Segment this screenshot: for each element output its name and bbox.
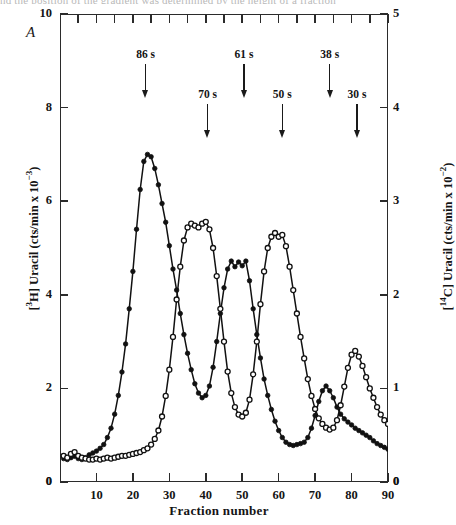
data-point [171, 267, 176, 272]
data-point [214, 274, 219, 279]
data-point [367, 386, 372, 391]
data-point [211, 246, 216, 251]
x-label-10: 10 [80, 488, 112, 503]
data-point [207, 384, 212, 389]
x-label-50: 50 [226, 488, 258, 503]
data-point [178, 311, 183, 316]
x-tick-top-minor-15 [114, 14, 116, 23]
data-point [207, 227, 212, 232]
x-tick-top-minor-35 [187, 14, 189, 23]
data-point [123, 342, 128, 347]
data-point [138, 187, 143, 192]
y-label-left-2: 2 [26, 380, 52, 395]
y-tick-left-6 [60, 200, 68, 202]
x-tick-30 [169, 473, 171, 482]
data-point [211, 365, 216, 370]
data-point [378, 412, 383, 417]
data-point [302, 440, 307, 445]
data-point [313, 406, 318, 411]
y-label-right-3: 3 [393, 193, 419, 208]
x-tick-top-10 [96, 14, 98, 23]
data-point [181, 238, 186, 243]
data-point [225, 267, 230, 272]
data-point [182, 332, 187, 337]
x-label-80: 80 [336, 488, 368, 503]
x-tick-top-minor-65 [296, 14, 298, 23]
data-point [368, 435, 373, 440]
data-point [156, 183, 161, 188]
data-point [156, 428, 161, 433]
data-point [142, 159, 147, 164]
x-tick-top-minor-85 [369, 14, 371, 23]
data-point [280, 435, 285, 440]
data-point [254, 339, 259, 344]
arrow-shaft [145, 64, 146, 90]
x-corner-zero-left: 0 [26, 474, 52, 489]
data-point [280, 232, 285, 237]
data-point [353, 348, 358, 353]
annotation-label: 30 s [335, 88, 379, 100]
data-point [342, 417, 347, 422]
data-point [127, 307, 132, 312]
data-point [371, 395, 376, 400]
y-label-right-4: 4 [393, 100, 419, 115]
data-point [273, 419, 278, 424]
data-point [265, 246, 270, 251]
x-tick-top-90 [387, 14, 389, 23]
y-axis-left-title: [3H] Uracil (cts/min x 10−3) [24, 144, 41, 334]
y-tick-right-4 [380, 107, 388, 109]
data-point [251, 307, 256, 312]
data-point [163, 220, 168, 225]
data-point [331, 396, 336, 401]
data-point [243, 410, 248, 415]
data-point [338, 403, 343, 408]
data-point [262, 377, 267, 382]
x-tick-top-minor-5 [77, 14, 79, 23]
data-point [167, 243, 172, 248]
y-label-left-10: 10 [26, 6, 52, 21]
x-label-30: 30 [153, 488, 185, 503]
x-tick-top-80 [351, 14, 353, 23]
data-point [204, 393, 209, 398]
x-tick-top-70 [314, 14, 316, 23]
data-point [109, 426, 114, 431]
data-point [386, 447, 391, 452]
data-point [276, 428, 281, 433]
y-label-left-8: 8 [26, 100, 52, 115]
data-point [342, 384, 347, 389]
y-tick-left-8 [60, 107, 68, 109]
data-point [291, 288, 296, 293]
data-point [320, 388, 325, 393]
data-point [287, 264, 292, 269]
arrow-shaft [329, 64, 330, 90]
series-h3-filled [61, 152, 390, 462]
data-point [309, 393, 314, 398]
x-tick-20 [132, 473, 134, 482]
data-point [222, 286, 227, 291]
data-point [247, 279, 252, 284]
arrow-head [327, 90, 333, 98]
data-point [193, 381, 198, 386]
arrow-head [279, 130, 285, 138]
x-label-60: 60 [263, 488, 295, 503]
data-point [317, 399, 322, 404]
data-point [167, 367, 172, 372]
data-point [298, 334, 303, 339]
arrow-head [241, 90, 247, 98]
data-point [258, 356, 263, 361]
data-point [349, 423, 354, 428]
x-tick-60 [278, 473, 280, 482]
data-point [345, 365, 350, 370]
data-point [196, 391, 201, 396]
data-point [225, 369, 230, 374]
x-tick-80 [351, 473, 353, 482]
data-point [185, 351, 190, 356]
data-point [309, 426, 314, 431]
data-point [240, 264, 245, 269]
data-point [149, 442, 154, 447]
x-tick-top-minor-45 [223, 14, 225, 23]
data-point [356, 354, 361, 359]
y-label-right-2: 2 [393, 287, 419, 302]
data-point [294, 311, 299, 316]
